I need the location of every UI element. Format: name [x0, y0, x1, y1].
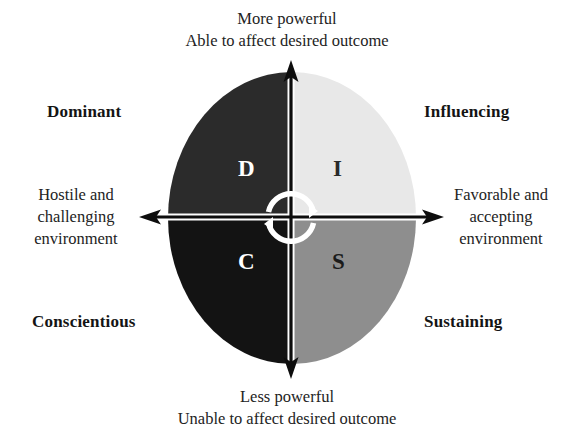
disc-quadrant-diagram: D I C S Dominant Influencing	[0, 0, 574, 439]
quadrant-influencing	[292, 72, 416, 218]
axis-label-bottom-line2: Unable to affect desired outcome	[0, 408, 574, 430]
axis-label-right-line3: environment	[432, 228, 570, 250]
quadrant-sustaining	[292, 218, 416, 364]
axis-label-top-line1: More powerful	[0, 8, 574, 30]
quadrant-conscientious	[168, 218, 292, 364]
axis-label-right-line1: Favorable and	[432, 184, 570, 206]
axis-label-left-line3: environment	[8, 228, 144, 250]
axis-label-left-line1: Hostile and	[8, 184, 144, 206]
axis-label-bottom-line1: Less powerful	[0, 386, 574, 408]
quadrant-dominant	[168, 72, 292, 218]
axis-label-left-line2: challenging	[8, 206, 144, 228]
axis-label-right-line2: accepting	[432, 206, 570, 228]
quadrant-letter-c: C	[238, 250, 255, 273]
quadrant-letter-d: D	[238, 157, 255, 180]
axis-label-right: Favorable and accepting environment	[432, 184, 570, 250]
axis-label-bottom: Less powerful Unable to affect desired o…	[0, 386, 574, 430]
label-influencing: Influencing	[424, 102, 509, 122]
axis-label-top: More powerful Able to affect desired out…	[0, 8, 574, 52]
circle-body	[168, 72, 416, 364]
axis-label-left: Hostile and challenging environment	[8, 184, 144, 250]
quadrant-letter-i: I	[333, 157, 342, 180]
label-conscientious: Conscientious	[32, 312, 136, 332]
quadrant-circle: D I C S	[168, 72, 416, 364]
axis-label-top-line2: Able to affect desired outcome	[0, 30, 574, 52]
label-sustaining: Sustaining	[424, 312, 503, 332]
quadrant-letter-s: S	[332, 250, 345, 273]
label-dominant: Dominant	[47, 102, 121, 122]
